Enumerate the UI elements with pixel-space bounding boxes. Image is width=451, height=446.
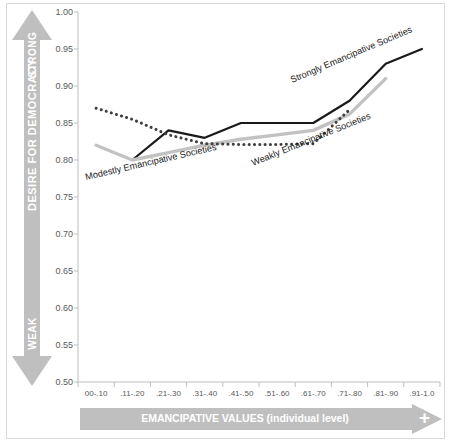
y-axis-tick-label: 0.95	[55, 44, 73, 54]
y-axis-tick-labels: 1.000.950.900.850.800.750.700.650.600.55…	[55, 7, 73, 387]
y-axis-tick-marks	[74, 12, 78, 382]
plot-area: 1.000.950.900.850.800.750.700.650.600.55…	[0, 0, 451, 446]
data-series-group	[96, 49, 422, 160]
x-axis-tick-label: .81-.90	[373, 389, 398, 398]
y-axis-tick-label: 0.80	[55, 155, 73, 165]
x-axis-tick-label: .71-.80	[337, 389, 362, 398]
x-axis-tick-label: .21-.30	[156, 389, 181, 398]
x-axis-tick-label: .31-.40	[192, 389, 217, 398]
x-axis-tick-label: .61-.70	[301, 389, 326, 398]
x-axis-tick-label: .91-1.0	[409, 389, 434, 398]
y-axis-tick-label: 0.65	[55, 266, 73, 276]
y-axis-tick-label: 0.90	[55, 81, 73, 91]
y-axis-tick-label: 0.85	[55, 118, 73, 128]
x-axis-tick-label: .51-.60	[265, 389, 290, 398]
annotation-strongly: Strongly Emancipative Societies	[289, 24, 414, 85]
x-axis-tick-label: .11-.20	[120, 389, 145, 398]
x-axis-tick-label: .41-.50	[228, 389, 253, 398]
y-axis-tick-label: 0.50	[55, 377, 73, 387]
y-axis-tick-label: 1.00	[55, 7, 73, 17]
y-axis-tick-label: 0.60	[55, 303, 73, 313]
x-axis-tick-label: 00-.10	[85, 389, 108, 398]
x-axis-tick-labels: 00-.10.11-.20.21-.30.31-.40.41-.50.51-.6…	[85, 389, 435, 398]
chart-figure: STRONG DESIRE FOR DEMOCRACY WEAK EMANCIP…	[0, 0, 451, 446]
series-line-1	[96, 79, 386, 160]
series-line-0	[132, 49, 422, 160]
annotation-weakly: Weakly Emancipative Societies	[250, 111, 372, 168]
y-axis-tick-label: 0.75	[55, 192, 73, 202]
y-axis-tick-label: 0.55	[55, 340, 73, 350]
y-axis-tick-label: 0.70	[55, 229, 73, 239]
x-axis-tick-marks	[78, 382, 440, 387]
